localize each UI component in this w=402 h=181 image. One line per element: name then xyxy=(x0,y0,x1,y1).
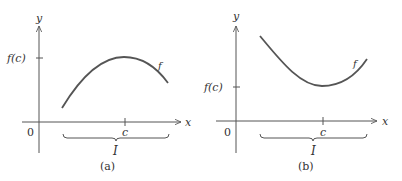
curve-f xyxy=(62,57,168,108)
panel-b: y x 0 f(c) c I f (b) xyxy=(203,10,389,173)
origin-label: 0 xyxy=(224,126,231,139)
origin-label: 0 xyxy=(27,126,34,139)
x-axis-label: x xyxy=(185,116,192,129)
interval-brace xyxy=(63,134,169,141)
figure-canvas: y x 0 f(c) c I f (a) y x 0 f(c) c I f (b… xyxy=(0,0,402,181)
c-label: c xyxy=(320,126,326,139)
caption-a: (a) xyxy=(100,160,115,173)
interval-label: I xyxy=(310,144,316,158)
y-axis-label: y xyxy=(35,12,43,25)
fc-label: f(c) xyxy=(203,81,223,94)
curve-label: f xyxy=(352,58,359,69)
interval-brace xyxy=(260,134,367,141)
curve-f xyxy=(260,36,367,86)
panel-a: y x 0 f(c) c I f (a) xyxy=(6,12,192,173)
curve-label: f xyxy=(157,60,164,71)
y-axis-label: y xyxy=(232,10,240,23)
c-label: c xyxy=(122,126,128,139)
caption-b: (b) xyxy=(298,160,314,173)
x-axis-label: x xyxy=(382,115,389,128)
fc-label: f(c) xyxy=(6,52,26,65)
interval-label: I xyxy=(112,144,118,158)
